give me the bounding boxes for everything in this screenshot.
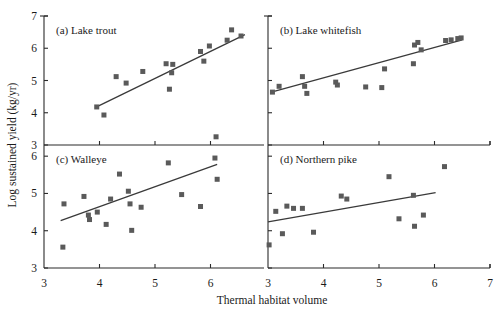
panel-d-data-point	[396, 216, 401, 221]
panel-d-data-point	[344, 197, 349, 202]
x-tick-label-left-6: 6	[208, 277, 214, 289]
panel-d-label: (d) Northern pike	[280, 153, 357, 166]
panel-c-data-point	[86, 213, 91, 218]
panel-b-data-point	[335, 83, 340, 88]
panel-b-data-point	[270, 90, 275, 95]
y-tick-label-top-4: 4	[31, 107, 37, 119]
panel-c-data-point	[179, 192, 184, 197]
panel-c-data-point	[117, 172, 122, 177]
panel-b-data-point	[300, 74, 305, 79]
panel-c-data-point	[87, 217, 92, 222]
panel-c-label: (c) Walleye	[56, 153, 107, 166]
panel-a-data-point	[207, 43, 212, 48]
panel-d-data-point	[412, 224, 417, 229]
panel-a-data-point	[239, 33, 244, 38]
panel-a-data-point	[114, 74, 119, 79]
panel-b: (b) Lake whitefish	[264, 16, 490, 145]
panel-b-data-point	[411, 61, 416, 66]
panel-d-data-point	[311, 230, 316, 235]
y-tick-label-bottom-5: 5	[31, 187, 37, 199]
panel-b-data-point	[379, 85, 384, 90]
panel-b-data-point	[382, 66, 387, 71]
figure-root: Log sustained yield (kg/yr) Thermal habi…	[0, 0, 502, 319]
panel-b-fit-line	[271, 40, 462, 92]
x-tick-label-left-3: 3	[41, 277, 47, 289]
panel-d-data-point	[339, 194, 344, 199]
panel-d-data-point	[291, 206, 296, 211]
four-panel-scatter-figure: Log sustained yield (kg/yr) Thermal habi…	[0, 0, 502, 319]
x-tick-label-right-5: 5	[376, 277, 382, 289]
panel-d-data-point	[273, 209, 278, 214]
panel-c-fit-line	[61, 164, 218, 220]
panel-a: (a) Lake trout	[40, 16, 264, 145]
y-tick-label-top-5: 5	[31, 75, 37, 87]
x-tick-label-right-4: 4	[321, 277, 327, 289]
panel-a-data-point	[229, 27, 234, 32]
panel-c-data-point	[214, 134, 219, 139]
panel-a-data-point	[94, 104, 99, 109]
panel-a-data-point	[170, 62, 175, 67]
panel-d-data-point	[284, 204, 289, 209]
panel-b-data-point	[419, 47, 424, 52]
panel-a-data-point	[164, 61, 169, 66]
panel-c-data-point	[126, 189, 131, 194]
panel-c-data-point	[108, 197, 113, 202]
panel-d-data-point	[280, 231, 285, 236]
panel-a-data-point	[169, 70, 174, 75]
x-tick-label-right-7: 7	[487, 277, 493, 289]
panel-c-data-point	[166, 160, 171, 165]
panel-c: (c) Walleye	[44, 134, 264, 268]
panel-c-data-point	[128, 201, 133, 206]
panel-c-data-point	[61, 201, 66, 206]
panel-d-data-point	[267, 242, 272, 247]
panel-d-data-point	[386, 174, 391, 179]
panel-a-label: (a) Lake trout	[56, 24, 116, 37]
panel-c-data-point	[81, 194, 86, 199]
x-tick-label-right-3: 3	[265, 277, 271, 289]
y-axis-title: Log sustained yield (kg/yr)	[6, 82, 19, 207]
x-tick-label-left-5: 5	[152, 277, 158, 289]
panel-a-data-point	[101, 113, 106, 118]
panel-b-data-point	[304, 91, 309, 96]
panel-c-data-point	[212, 156, 217, 161]
x-axis-title: Thermal habitat volume	[217, 294, 328, 306]
panel-b-data-point	[277, 84, 282, 89]
panel-b-label: (b) Lake whitefish	[280, 24, 362, 37]
panels-layer: (a) Lake trout(b) Lake whitefish(c) Wall…	[31, 10, 493, 289]
panel-c-data-point	[198, 204, 203, 209]
panel-a-data-point	[124, 81, 129, 86]
panel-c-data-point	[139, 205, 144, 210]
panel-b-data-point	[449, 37, 454, 42]
panel-d-data-point	[411, 193, 416, 198]
panel-d-data-point	[442, 164, 447, 169]
panel-b-data-point	[415, 40, 420, 45]
panel-a-data-point	[167, 87, 172, 92]
panel-a-data-point	[225, 38, 230, 43]
panel-d: (d) Northern pike	[267, 145, 490, 268]
panel-b-data-point	[459, 35, 464, 40]
y-tick-label-top-6: 6	[31, 42, 37, 54]
y-tick-label-bottom-3: 3	[31, 262, 37, 274]
x-tick-label-left-4: 4	[97, 277, 103, 289]
y-tick-label-bottom-6: 6	[31, 150, 37, 162]
panel-d-data-point	[300, 206, 305, 211]
panel-b-data-point	[443, 38, 448, 43]
x-tick-label-right-6: 6	[432, 277, 438, 289]
y-tick-label-top-7: 7	[31, 10, 37, 22]
y-tick-label-bottom-4: 4	[31, 225, 37, 237]
panel-c-data-point	[215, 177, 220, 182]
panel-c-data-point	[104, 222, 109, 227]
panel-d-data-point	[421, 213, 426, 218]
panel-b-data-point	[302, 84, 307, 89]
panel-a-data-point	[201, 59, 206, 64]
panel-a-data-point	[198, 49, 203, 54]
panel-c-data-point	[60, 245, 65, 250]
panel-c-data-point	[95, 210, 100, 215]
panel-a-data-point	[140, 69, 145, 74]
panel-b-data-point	[363, 84, 368, 89]
panel-c-data-point	[129, 228, 134, 233]
